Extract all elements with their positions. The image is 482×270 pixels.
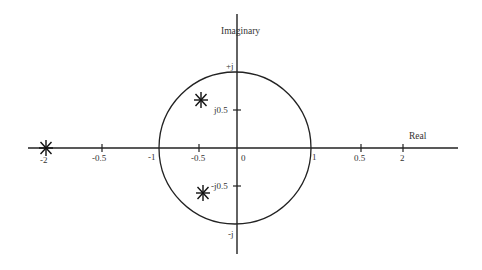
tick-label-neg0.5-outer: -0.5 <box>92 153 107 163</box>
pole-zero-diagram: -2 -0.5 -1 -0.5 0 1 0.5 2 +j j0.5 -j0.5 … <box>0 0 482 270</box>
real-axis-title: Real <box>409 131 427 141</box>
tick-label-2: 2 <box>400 153 405 163</box>
tick-label-neg1: -1 <box>148 152 156 162</box>
tick-label-plus-j: +j <box>226 61 234 71</box>
tick-label-0.5-right: 0.5 <box>354 153 366 163</box>
pole-marker-lower <box>196 185 210 201</box>
tick-label-neg-j0.5: -j0.5 <box>211 181 228 191</box>
pole-marker-upper <box>194 92 208 108</box>
tick-label-neg-j: -j <box>228 229 234 239</box>
complex-plane-svg: -2 -0.5 -1 -0.5 0 1 0.5 2 +j j0.5 -j0.5 … <box>0 0 482 270</box>
tick-label-neg2: -2 <box>40 155 48 165</box>
imaginary-axis-title: Imaginary <box>221 26 260 36</box>
pole-marker-real <box>39 140 53 156</box>
tick-label-1: 1 <box>312 152 317 162</box>
tick-label-neg0.5-inner: -0.5 <box>191 153 206 163</box>
tick-label-0: 0 <box>241 153 246 163</box>
tick-label-j0.5: j0.5 <box>213 105 228 115</box>
